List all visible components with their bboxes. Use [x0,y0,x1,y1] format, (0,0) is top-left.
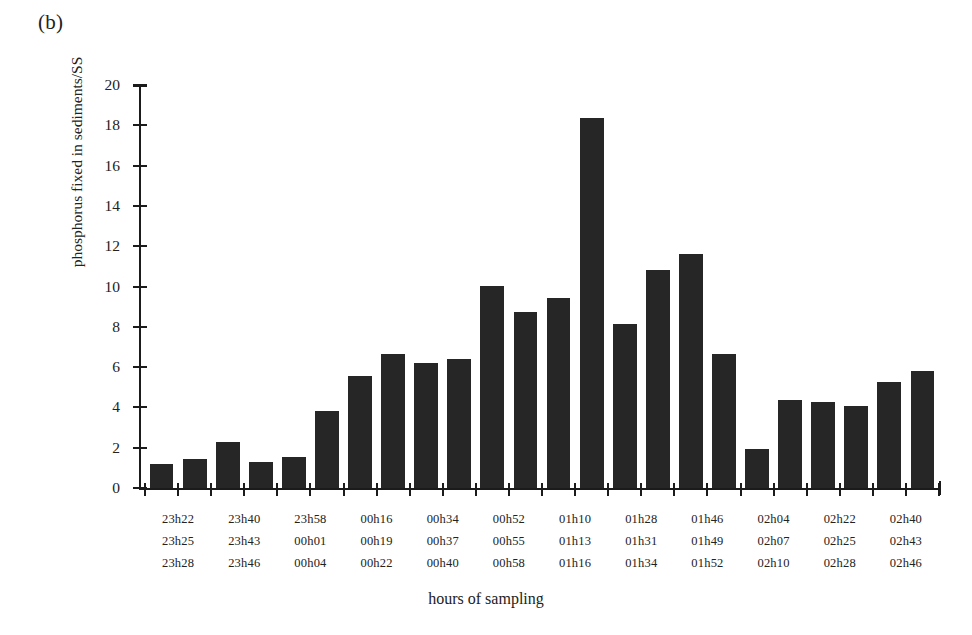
bar [315,411,339,488]
x-axis-tick-label: 02h28 [824,556,856,571]
x-axis-tick-label: 23h25 [162,534,194,549]
x-axis-tick [409,483,411,496]
x-axis-tick-label: 01h13 [559,534,591,549]
x-axis-tick-label: 01h52 [691,556,723,571]
bar [877,382,901,488]
x-axis-tick [574,483,576,496]
x-axis-tick [210,483,212,496]
y-axis-tick [133,406,147,408]
x-axis-tick [276,483,278,496]
x-axis-tick-label: 00h34 [427,512,459,527]
x-axis-tick-label: 23h58 [294,512,326,527]
x-axis-tick-label: 02h43 [890,534,922,549]
x-axis-tick-label: 01h46 [691,512,723,527]
x-axis-tick-label: 23h22 [162,512,194,527]
y-axis-tick-label: 12 [86,237,120,255]
x-axis-tick-label-row: 23h2223h4023h5800h1600h3400h5201h1001h28… [139,512,941,533]
panel-label: (b) [38,10,63,35]
x-axis-title: hours of sampling [0,590,972,608]
x-axis-line [139,488,941,490]
bar [811,402,835,488]
bar [183,459,207,488]
x-axis-tick [872,483,874,496]
figure-panel-b: (b) phosphorus fixed in sediments/SS 024… [0,0,972,635]
y-axis-tick [133,165,147,167]
x-axis-tick-label: 01h28 [625,512,657,527]
x-axis-tick-label: 23h46 [228,556,260,571]
x-axis-tick [541,483,543,496]
x-axis-tick [309,483,311,496]
x-axis-tick-label: 02h07 [757,534,789,549]
x-axis-tick [442,483,444,496]
y-axis-tick [133,245,147,247]
x-axis-tick-label: 02h25 [824,534,856,549]
x-axis-tick [508,483,510,496]
y-axis-tick-label: 4 [86,398,120,416]
bar [911,371,935,488]
bar [844,406,868,488]
x-axis-tick [706,483,708,496]
x-axis-tick-label: 01h16 [559,556,591,571]
x-axis-tick [475,483,477,496]
y-axis-tick-label: 16 [86,157,120,175]
bar [348,376,372,488]
y-axis-tick [133,326,147,328]
x-axis-tick-labels: 23h2223h4023h5800h1600h3400h5201h1001h28… [139,512,941,578]
x-axis-tick [343,483,345,496]
x-axis-tick [938,483,940,496]
x-axis-tick [607,483,609,496]
x-axis-tick-label: 00h19 [360,534,392,549]
y-axis-tick-label: 20 [86,76,120,94]
bar [745,449,769,488]
x-axis-tick-label: 00h58 [493,556,525,571]
y-axis-tick [133,84,147,86]
bar [150,464,174,488]
bar [679,254,703,488]
x-axis-tick-label-row: 23h2823h4600h0400h2200h4000h5801h1601h34… [139,556,941,577]
bar [514,312,538,488]
x-axis-tick-label: 00h40 [427,556,459,571]
y-axis-tick [133,124,147,126]
y-axis-title: phosphorus fixed in sediments/SS [68,57,86,268]
bar [480,286,504,489]
x-axis-tick [905,483,907,496]
bar [778,400,802,488]
x-axis-tick [740,483,742,496]
x-axis-tick-label: 01h49 [691,534,723,549]
y-axis-tick-label: 6 [86,358,120,376]
y-axis-tick-label: 8 [86,318,120,336]
bar [249,462,273,488]
x-axis-tick-label: 02h40 [890,512,922,527]
x-axis-tick [839,483,841,496]
plot-area: 02468101214161820 [139,85,941,490]
x-axis-tick-label: 01h34 [625,556,657,571]
bar [580,118,604,488]
y-axis-tick-label: 0 [86,479,120,497]
y-axis-tick [133,205,147,207]
x-axis-tick [640,483,642,496]
x-axis-tick-label: 02h10 [757,556,789,571]
x-axis-tick-label: 00h37 [427,534,459,549]
x-axis-tick [376,483,378,496]
x-axis-tick-label-row: 23h2523h4300h0100h1900h3700h5501h1301h31… [139,534,941,555]
x-axis-tick-label: 00h55 [493,534,525,549]
bar [646,270,670,488]
bar [547,298,571,488]
x-axis-tick-label: 00h16 [360,512,392,527]
y-axis-tick [133,447,147,449]
y-axis-line [139,85,141,490]
y-axis-tick-label: 18 [86,116,120,134]
y-axis-tick-labels: 02468101214161820 [133,85,134,490]
y-axis-tick-label: 14 [86,197,120,215]
x-axis-tick [243,483,245,496]
x-axis-tick-label: 23h43 [228,534,260,549]
bar [414,363,438,488]
x-axis-tick-label: 00h22 [360,556,392,571]
x-axis-tick-label: 23h40 [228,512,260,527]
bar [613,324,637,488]
bar [712,354,736,488]
y-axis-tick-label: 10 [86,278,120,296]
bar [282,457,306,488]
bar [381,354,405,488]
bar [447,359,471,488]
